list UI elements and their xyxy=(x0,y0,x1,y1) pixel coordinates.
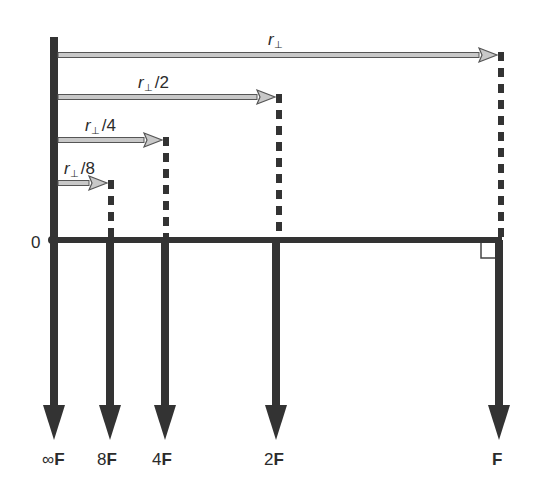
arrow-head-icon xyxy=(144,133,162,147)
force-label: 2F xyxy=(264,450,284,469)
arrow-head-icon xyxy=(89,176,107,190)
lever-arm-shaft xyxy=(58,95,257,100)
force-arrow-shaft xyxy=(161,240,169,415)
lever-arm-label: r⊥ xyxy=(268,30,283,50)
force-arrow-shaft xyxy=(106,240,114,415)
force-arrow-shaft xyxy=(495,240,503,415)
origin-label: 0 xyxy=(31,233,40,252)
diagram-svg: 0 r⊥r⊥/2r⊥/4r⊥/8∞F8F4F2FF xyxy=(0,0,539,489)
lever-arm-shaft xyxy=(58,181,89,186)
lever-arm-label: r⊥/8 xyxy=(64,159,95,179)
lever-arm-label: r⊥/2 xyxy=(138,73,169,93)
force-label: F xyxy=(492,450,502,469)
axes xyxy=(48,37,502,258)
lever-arm-shaft xyxy=(58,53,479,58)
force-label: 8F xyxy=(97,450,117,469)
arrow-down-icon xyxy=(488,405,510,440)
force-label: ∞F xyxy=(42,450,65,469)
arrow-down-icon xyxy=(99,405,121,440)
force-arrow-shaft xyxy=(50,240,58,415)
lever-arm-shaft xyxy=(58,138,144,143)
dashed-projection-lines xyxy=(111,52,501,238)
arrow-head-icon xyxy=(479,48,497,62)
force-arrow-shaft xyxy=(272,240,280,415)
force-label: 4F xyxy=(152,450,172,469)
vertical-pivot-axis xyxy=(50,37,58,242)
torque-lever-arm-diagram: 0 r⊥r⊥/2r⊥/4r⊥/8∞F8F4F2FF xyxy=(0,0,539,489)
arrow-down-icon xyxy=(154,405,176,440)
force-arrows xyxy=(43,240,510,440)
arrow-head-icon xyxy=(257,90,275,104)
arrow-down-icon xyxy=(43,405,65,440)
right-angle-marker xyxy=(481,243,497,258)
arrow-down-icon xyxy=(265,405,287,440)
lever-arm-label: r⊥/4 xyxy=(85,116,116,136)
